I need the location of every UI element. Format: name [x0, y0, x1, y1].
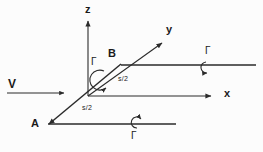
- vortex-horseshoe-diagram: z y x A B V s/2 s/2 Γ Γ Γ: [0, 0, 263, 152]
- z-axis-label: z: [85, 4, 91, 15]
- gamma-label-bottom: Γ: [131, 131, 137, 141]
- segment-label-upper: s/2: [118, 75, 128, 82]
- gamma-label-right: Γ: [205, 46, 211, 56]
- gamma-label-origin: Γ: [91, 57, 97, 67]
- circulation-arc-right: [201, 62, 207, 73]
- velocity-label: V: [8, 78, 16, 90]
- segment-label-lower: s/2: [82, 104, 92, 111]
- point-a-label: A: [31, 118, 39, 129]
- y-axis: [88, 43, 162, 96]
- y-axis-label: y: [166, 24, 172, 35]
- bound-vortex-line: [49, 64, 121, 124]
- circulation-arc-bottom: [131, 117, 141, 128]
- point-b-label: B: [108, 48, 116, 59]
- circulation-arc-origin: [90, 70, 106, 90]
- x-axis-label: x: [224, 88, 230, 99]
